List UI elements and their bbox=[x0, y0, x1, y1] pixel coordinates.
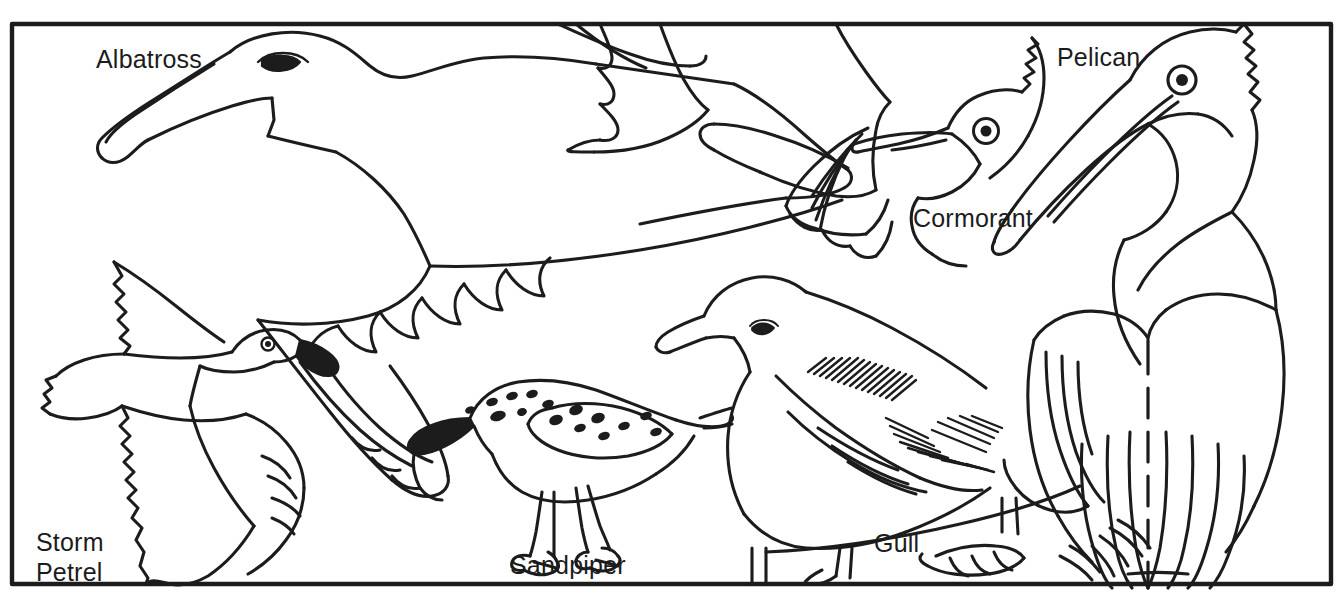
art-background bbox=[0, 0, 1343, 601]
cormorant-eye-icon bbox=[981, 126, 992, 137]
illustration-canvas: Albatross Pelican Cormorant Gull Sandpip… bbox=[0, 0, 1343, 601]
pelican-eye-icon bbox=[1176, 74, 1188, 86]
seabirds-line-art bbox=[0, 0, 1343, 601]
storm-petrel-eye-icon bbox=[265, 341, 271, 347]
